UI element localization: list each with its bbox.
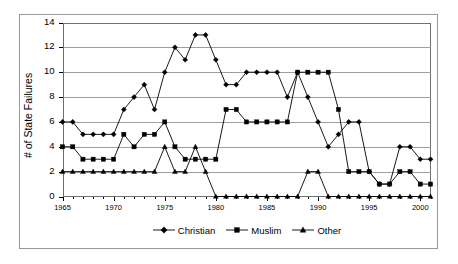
legend-marker-triangle-icon bbox=[291, 225, 315, 235]
x-tick-label-2000: 2000 bbox=[400, 203, 440, 212]
y-tick-mark-0 bbox=[59, 197, 63, 198]
y-tick-mark-6 bbox=[59, 122, 63, 123]
x-tick-mark-1999 bbox=[410, 197, 411, 200]
x-tick-mark-1997 bbox=[390, 197, 391, 200]
gridline-y-4 bbox=[64, 147, 431, 148]
x-tick-mark-1973 bbox=[144, 197, 145, 200]
x-tick-mark-2000 bbox=[420, 197, 421, 201]
y-tick-mark-14 bbox=[59, 23, 63, 24]
x-tick-mark-1971 bbox=[124, 197, 125, 200]
x-tick-mark-1975 bbox=[165, 197, 166, 201]
x-tick-mark-1992 bbox=[339, 197, 340, 200]
x-tick-mark-1985 bbox=[267, 197, 268, 201]
y-tick-label-12: 12 bbox=[27, 41, 55, 51]
x-tick-mark-1968 bbox=[93, 197, 94, 200]
x-tick-mark-1972 bbox=[134, 197, 135, 200]
y-tick-mark-8 bbox=[59, 97, 63, 98]
legend-entry-christian[interactable]: Christian bbox=[152, 225, 216, 236]
x-tick-mark-1980 bbox=[216, 197, 217, 201]
x-tick-mark-1987 bbox=[287, 197, 288, 200]
legend-marker-square-icon bbox=[225, 225, 249, 235]
x-tick-mark-1990 bbox=[318, 197, 319, 201]
y-tick-label-14: 14 bbox=[27, 17, 55, 27]
chart-figure: 02468101214 1965197019751980198519901995… bbox=[0, 0, 458, 264]
x-tick-label-1975: 1975 bbox=[145, 203, 185, 212]
x-tick-mark-1994 bbox=[359, 197, 360, 200]
x-tick-mark-1970 bbox=[114, 197, 115, 201]
x-tick-label-1990: 1990 bbox=[298, 203, 338, 212]
legend-entry-other[interactable]: Other bbox=[291, 225, 341, 236]
x-tick-mark-1986 bbox=[277, 197, 278, 200]
gridline-y-12 bbox=[64, 47, 431, 48]
legend-label-other: Other bbox=[317, 225, 341, 236]
legend-label-muslim: Muslim bbox=[251, 225, 281, 236]
x-tick-mark-1996 bbox=[379, 197, 380, 200]
x-tick-label-1985: 1985 bbox=[247, 203, 287, 212]
x-tick-label-1995: 1995 bbox=[349, 203, 389, 212]
gridline-y-10 bbox=[64, 72, 431, 73]
legend-label-christian: Christian bbox=[178, 225, 216, 236]
y-tick-mark-2 bbox=[59, 172, 63, 173]
x-tick-mark-1995 bbox=[369, 197, 370, 201]
x-tick-label-1970: 1970 bbox=[94, 203, 134, 212]
x-tick-mark-1966 bbox=[73, 197, 74, 200]
x-tick-mark-1988 bbox=[298, 197, 299, 200]
legend-marker-diamond-icon bbox=[152, 225, 176, 235]
gridline-y-6 bbox=[64, 122, 431, 123]
x-tick-label-1965: 1965 bbox=[43, 203, 83, 212]
x-tick-mark-1967 bbox=[83, 197, 84, 200]
x-tick-mark-1984 bbox=[257, 197, 258, 200]
gridline-y-2 bbox=[64, 172, 431, 173]
x-tick-mark-1979 bbox=[206, 197, 207, 200]
x-tick-label-1980: 1980 bbox=[196, 203, 236, 212]
x-tick-mark-1969 bbox=[103, 197, 104, 200]
y-axis-title: # of State Failures bbox=[22, 72, 34, 157]
chart-legend: ChristianMuslimOther bbox=[63, 222, 431, 238]
y-tick-label-2: 2 bbox=[27, 166, 55, 176]
legend-entry-muslim[interactable]: Muslim bbox=[225, 225, 281, 236]
x-tick-mark-1965 bbox=[63, 197, 64, 201]
x-tick-mark-1991 bbox=[328, 197, 329, 200]
y-tick-mark-4 bbox=[59, 147, 63, 148]
x-tick-mark-1981 bbox=[226, 197, 227, 200]
x-tick-mark-1978 bbox=[195, 197, 196, 200]
x-tick-mark-2001 bbox=[431, 197, 432, 200]
x-tick-mark-1983 bbox=[247, 197, 248, 200]
x-tick-mark-1989 bbox=[308, 197, 309, 200]
line-chart: 02468101214 1965197019751980198519901995… bbox=[0, 0, 458, 264]
gridline-y-8 bbox=[64, 97, 431, 98]
y-tick-label-0: 0 bbox=[27, 191, 55, 201]
y-tick-mark-10 bbox=[59, 72, 63, 73]
x-tick-mark-1993 bbox=[349, 197, 350, 200]
x-tick-mark-1982 bbox=[236, 197, 237, 200]
plot-area-frame bbox=[63, 23, 431, 197]
x-tick-mark-1977 bbox=[185, 197, 186, 200]
y-tick-mark-12 bbox=[59, 47, 63, 48]
x-tick-mark-1998 bbox=[400, 197, 401, 200]
x-tick-mark-1976 bbox=[175, 197, 176, 200]
x-tick-mark-1974 bbox=[155, 197, 156, 200]
